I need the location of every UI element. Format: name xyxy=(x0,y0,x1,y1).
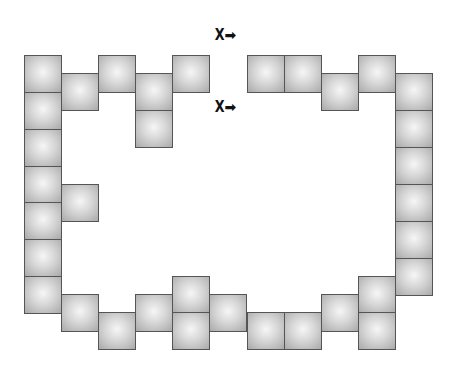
block xyxy=(395,110,433,148)
block xyxy=(24,276,62,314)
block xyxy=(24,55,62,93)
block xyxy=(247,55,285,93)
x-label: X xyxy=(215,100,224,115)
block xyxy=(61,73,99,111)
right-arrow-icon: ➡ xyxy=(225,100,236,114)
game-board: X➡ X➡ xyxy=(0,0,455,367)
block xyxy=(135,73,173,111)
block xyxy=(358,55,396,93)
block xyxy=(209,294,247,332)
block xyxy=(358,276,396,314)
x-label: X xyxy=(215,28,224,43)
block xyxy=(24,166,62,204)
block xyxy=(98,55,136,93)
block xyxy=(247,312,285,350)
block xyxy=(321,73,359,111)
block xyxy=(284,312,322,350)
block xyxy=(172,55,210,93)
block xyxy=(98,312,136,350)
block xyxy=(321,294,359,332)
right-arrow-icon: ➡ xyxy=(225,28,236,42)
block xyxy=(24,202,62,240)
block xyxy=(358,312,396,350)
block xyxy=(61,294,99,332)
block xyxy=(24,239,62,277)
block xyxy=(395,258,433,296)
block xyxy=(395,147,433,185)
entry-marker-bottom: X➡ xyxy=(214,100,235,115)
block xyxy=(284,55,322,93)
block xyxy=(395,184,433,222)
block xyxy=(135,294,173,332)
block xyxy=(24,129,62,167)
block xyxy=(172,312,210,350)
block xyxy=(395,221,433,259)
block xyxy=(172,276,210,314)
block xyxy=(24,92,62,130)
block xyxy=(135,110,173,148)
block xyxy=(395,73,433,111)
entry-marker-top: X➡ xyxy=(214,28,235,43)
block xyxy=(61,184,99,222)
